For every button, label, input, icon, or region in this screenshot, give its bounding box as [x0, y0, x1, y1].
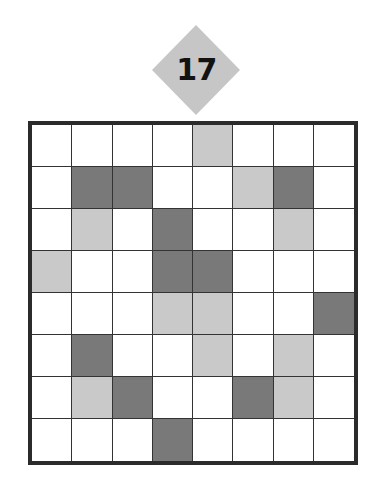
grid-cell[interactable]	[32, 125, 72, 167]
grid-cell[interactable]	[193, 419, 233, 461]
grid-cell[interactable]	[72, 377, 112, 419]
grid-cell[interactable]	[153, 419, 193, 461]
grid-cell[interactable]	[193, 251, 233, 293]
grid-cell[interactable]	[274, 377, 314, 419]
grid-cell[interactable]	[72, 167, 112, 209]
grid-cell[interactable]	[233, 251, 273, 293]
puzzle-number-label: 17	[152, 25, 240, 115]
grid-cell[interactable]	[233, 419, 273, 461]
puzzle-grid-cells	[32, 125, 354, 461]
grid-cell[interactable]	[233, 125, 273, 167]
grid-cell[interactable]	[274, 167, 314, 209]
grid-cell[interactable]	[32, 419, 72, 461]
grid-cell[interactable]	[72, 293, 112, 335]
grid-cell[interactable]	[153, 335, 193, 377]
grid-cell[interactable]	[193, 293, 233, 335]
grid-cell[interactable]	[32, 293, 72, 335]
grid-cell[interactable]	[153, 125, 193, 167]
grid-cell[interactable]	[32, 251, 72, 293]
grid-cell[interactable]	[72, 209, 112, 251]
grid-cell[interactable]	[32, 335, 72, 377]
grid-cell[interactable]	[72, 335, 112, 377]
grid-cell[interactable]	[314, 209, 354, 251]
grid-cell[interactable]	[233, 209, 273, 251]
grid-cell[interactable]	[113, 335, 153, 377]
grid-cell[interactable]	[153, 209, 193, 251]
grid-cell[interactable]	[233, 293, 273, 335]
grid-cell[interactable]	[314, 167, 354, 209]
grid-cell[interactable]	[32, 377, 72, 419]
grid-cell[interactable]	[153, 251, 193, 293]
grid-cell[interactable]	[72, 419, 112, 461]
grid-cell[interactable]	[233, 335, 273, 377]
grid-cell[interactable]	[274, 251, 314, 293]
grid-cell[interactable]	[314, 335, 354, 377]
grid-cell[interactable]	[153, 167, 193, 209]
grid-cell[interactable]	[274, 293, 314, 335]
grid-cell[interactable]	[113, 209, 153, 251]
puzzle-root: 17	[0, 0, 383, 492]
grid-cell[interactable]	[233, 167, 273, 209]
grid-cell[interactable]	[32, 209, 72, 251]
grid-cell[interactable]	[113, 377, 153, 419]
grid-cell[interactable]	[233, 377, 273, 419]
grid-cell[interactable]	[193, 167, 233, 209]
grid-cell[interactable]	[274, 335, 314, 377]
grid-cell[interactable]	[314, 125, 354, 167]
grid-cell[interactable]	[153, 377, 193, 419]
grid-cell[interactable]	[193, 335, 233, 377]
puzzle-number-badge: 17	[152, 25, 240, 115]
grid-cell[interactable]	[314, 377, 354, 419]
grid-cell[interactable]	[113, 293, 153, 335]
grid-cell[interactable]	[314, 419, 354, 461]
grid-cell[interactable]	[193, 125, 233, 167]
grid-cell[interactable]	[274, 209, 314, 251]
grid-cell[interactable]	[274, 419, 314, 461]
grid-cell[interactable]	[274, 125, 314, 167]
grid-cell[interactable]	[314, 293, 354, 335]
grid-cell[interactable]	[113, 167, 153, 209]
grid-cell[interactable]	[314, 251, 354, 293]
grid-cell[interactable]	[72, 251, 112, 293]
grid-cell[interactable]	[72, 125, 112, 167]
grid-cell[interactable]	[193, 209, 233, 251]
grid-cell[interactable]	[113, 419, 153, 461]
grid-cell[interactable]	[113, 125, 153, 167]
grid-cell[interactable]	[153, 293, 193, 335]
grid-cell[interactable]	[113, 251, 153, 293]
grid-cell[interactable]	[32, 167, 72, 209]
puzzle-grid[interactable]	[28, 121, 358, 465]
grid-cell[interactable]	[193, 377, 233, 419]
